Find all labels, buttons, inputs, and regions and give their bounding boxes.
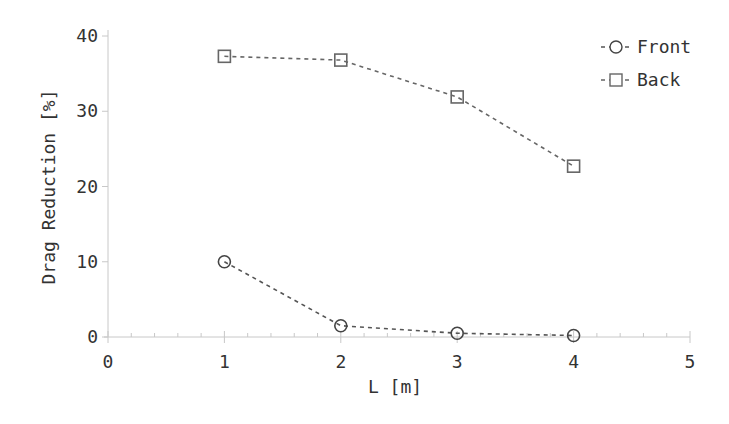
- square-marker: [568, 160, 580, 172]
- x-tick-label: 1: [219, 351, 230, 372]
- legend-item-back: Back: [601, 69, 681, 90]
- x-tick-label: 0: [103, 351, 114, 372]
- x-tick-label: 2: [335, 351, 346, 372]
- legend: FrontBack: [601, 36, 691, 90]
- x-axis: 012345: [103, 331, 696, 372]
- y-tick-label: 10: [76, 251, 98, 272]
- square-marker-icon: [610, 74, 622, 86]
- legend-label: Front: [637, 36, 691, 57]
- x-axis-title: L [m]: [368, 376, 422, 397]
- y-axis-title: Drag Reduction [%]: [38, 89, 59, 284]
- y-axis: 010203040: [76, 25, 108, 347]
- line-chart: 010203040 012345 FrontBack L [m] Drag Re…: [0, 0, 729, 424]
- legend-item-front: Front: [601, 36, 691, 57]
- y-tick-label: 20: [76, 176, 98, 197]
- y-tick-label: 40: [76, 25, 98, 46]
- series-front: [218, 256, 579, 342]
- series-back: [218, 50, 579, 172]
- plot-series: [218, 50, 579, 341]
- x-tick-label: 5: [685, 351, 696, 372]
- y-tick-label: 0: [87, 326, 98, 347]
- square-marker: [451, 91, 463, 103]
- x-tick-label: 3: [452, 351, 463, 372]
- x-tick-label: 4: [568, 351, 579, 372]
- legend-label: Back: [637, 69, 681, 90]
- series-line: [224, 262, 573, 336]
- series-line: [224, 56, 573, 166]
- circle-marker-icon: [610, 41, 622, 53]
- y-tick-label: 30: [76, 100, 98, 121]
